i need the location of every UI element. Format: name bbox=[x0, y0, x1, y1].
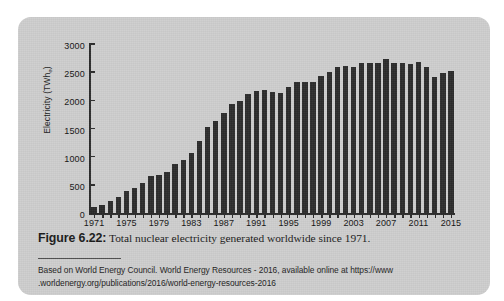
x-axis-tick-label: 1979 bbox=[149, 218, 169, 228]
bar bbox=[343, 66, 348, 213]
x-axis-tick-mark bbox=[321, 214, 322, 218]
bar bbox=[148, 176, 153, 213]
bar bbox=[189, 153, 194, 213]
y-axis-tick-label: 1000 bbox=[64, 154, 90, 164]
x-axis-tick-mark bbox=[378, 214, 379, 218]
x-axis-tick-mark bbox=[208, 214, 209, 218]
y-axis-tick-mark bbox=[90, 128, 95, 130]
x-axis-tick-label: 1971 bbox=[84, 218, 104, 228]
figure-caption-text: Total nuclear electricity generated worl… bbox=[106, 232, 370, 244]
x-axis-tick-mark bbox=[264, 214, 265, 218]
bar bbox=[221, 113, 226, 213]
bar bbox=[164, 172, 169, 213]
bar bbox=[229, 104, 234, 213]
y-axis-tick: 1000 bbox=[64, 148, 90, 166]
bar bbox=[108, 201, 113, 213]
y-axis-tick-mark bbox=[90, 71, 95, 73]
x-axis-tick-label: 2007 bbox=[376, 218, 396, 228]
y-axis-tick-mark bbox=[90, 156, 95, 158]
x-axis-tick-mark bbox=[435, 214, 436, 218]
y-axis-tick-label: 500 bbox=[69, 182, 90, 192]
bar bbox=[391, 63, 396, 213]
x-axis-tick-mark bbox=[427, 214, 428, 218]
bar bbox=[351, 67, 356, 213]
x-axis-tick-label: 1995 bbox=[279, 218, 299, 228]
bar bbox=[302, 82, 307, 213]
bar bbox=[335, 67, 340, 213]
x-axis-tick-mark bbox=[127, 214, 128, 218]
bar bbox=[383, 59, 388, 213]
x-axis-tick-mark bbox=[110, 214, 111, 218]
x-axis-tick-mark bbox=[151, 214, 152, 218]
bar bbox=[286, 87, 291, 213]
bar bbox=[140, 183, 145, 213]
source-divider bbox=[38, 258, 121, 259]
bar bbox=[367, 63, 372, 213]
figure-source: Based on World Energy Council. World Ene… bbox=[38, 264, 474, 290]
source-line-2: .worldenergy.org/publications/2016/world… bbox=[38, 278, 276, 288]
bar bbox=[181, 160, 186, 213]
bar bbox=[124, 191, 129, 213]
x-axis-tick-mark bbox=[118, 214, 119, 218]
x-axis-tick-mark bbox=[135, 214, 136, 218]
figure-number: Figure 6.22: bbox=[38, 231, 106, 245]
bar bbox=[327, 72, 332, 213]
bar bbox=[132, 188, 137, 213]
x-axis-tick-mark bbox=[402, 214, 403, 218]
x-axis-tick-mark bbox=[451, 214, 452, 218]
source-line-1: Based on World Energy Council. World Ene… bbox=[38, 265, 393, 275]
x-axis-tick-mark bbox=[143, 214, 144, 218]
x-axis-ticks: 1971197519791983198719911995199920032007… bbox=[90, 213, 455, 227]
y-axis-tick: 2000 bbox=[64, 91, 90, 109]
x-axis-tick-mark bbox=[410, 214, 411, 218]
x-axis-tick-mark bbox=[273, 214, 274, 218]
x-axis-tick-label: 2003 bbox=[343, 218, 363, 228]
x-axis-tick-mark bbox=[370, 214, 371, 218]
plot-area: 050010001500200025003000 197119751979198… bbox=[90, 44, 455, 213]
y-axis-tick: 1500 bbox=[64, 120, 90, 138]
bar bbox=[416, 62, 421, 213]
bar bbox=[359, 63, 364, 213]
page-root: Electricity (TWhe) 050010001500200025003… bbox=[0, 0, 504, 301]
bar bbox=[172, 164, 177, 213]
x-axis-tick-label: 2015 bbox=[441, 218, 461, 228]
x-axis-tick-mark bbox=[362, 214, 363, 218]
y-axis-tick: 2500 bbox=[64, 63, 90, 81]
x-axis-tick-mark bbox=[419, 214, 420, 218]
y-axis-tick: 500 bbox=[69, 176, 90, 194]
x-axis-tick-mark bbox=[354, 214, 355, 218]
bar bbox=[432, 77, 437, 213]
x-axis-tick-mark bbox=[305, 214, 306, 218]
x-axis-tick-mark bbox=[329, 214, 330, 218]
bar bbox=[448, 71, 453, 213]
x-axis-tick-mark bbox=[232, 214, 233, 218]
x-axis-tick-mark bbox=[281, 214, 282, 218]
bar bbox=[408, 64, 413, 213]
x-axis-tick-mark bbox=[159, 214, 160, 218]
x-axis-tick-mark bbox=[200, 214, 201, 218]
x-axis-tick-mark bbox=[248, 214, 249, 218]
x-axis-tick-label: 1999 bbox=[311, 218, 331, 228]
y-axis-label-subscript: e bbox=[46, 69, 53, 73]
y-axis-tick-mark bbox=[90, 184, 95, 186]
bar bbox=[424, 67, 429, 213]
x-axis-tick-label: 1987 bbox=[214, 218, 234, 228]
bar bbox=[213, 121, 218, 213]
bar bbox=[440, 73, 445, 213]
bar bbox=[237, 101, 242, 213]
bar bbox=[205, 127, 210, 213]
x-axis-tick-mark bbox=[313, 214, 314, 218]
bar bbox=[310, 82, 315, 213]
x-axis-tick-mark bbox=[94, 214, 95, 218]
bar bbox=[254, 91, 259, 213]
x-axis-tick-label: 1991 bbox=[246, 218, 266, 228]
bar-chart: Electricity (TWhe) 050010001500200025003… bbox=[18, 17, 490, 229]
y-axis-tick-label: 2000 bbox=[64, 97, 90, 107]
y-axis-label-main: Electricity (TWh bbox=[42, 73, 52, 134]
x-axis-tick-mark bbox=[256, 214, 257, 218]
bar bbox=[318, 76, 323, 213]
x-axis-tick-mark bbox=[394, 214, 395, 218]
bar bbox=[278, 93, 283, 213]
bar bbox=[294, 82, 299, 213]
bar bbox=[400, 63, 405, 213]
